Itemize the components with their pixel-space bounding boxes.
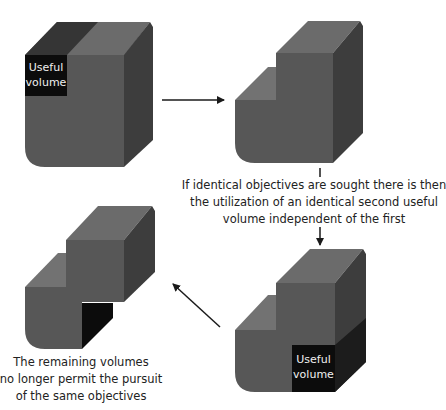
caption-line: If identical objectives are sought there…: [182, 177, 446, 194]
block-2: [235, 21, 363, 163]
caption-line: of the same objectives: [0, 388, 162, 405]
caption-line: volume independent of the first: [182, 211, 446, 228]
caption-line: the utilization of an identical second u…: [182, 194, 446, 211]
identical-objectives-caption: If identical objectives are sought there…: [182, 177, 446, 228]
caption-line: no longer permit the pursuit: [0, 371, 162, 388]
useful-volume-label-2: Useful volume: [292, 352, 335, 382]
useful-volume-label-1: Useful volume: [25, 60, 67, 90]
useful-volume-label-2-line2: volume: [292, 367, 335, 382]
block-4: [25, 206, 155, 349]
arrow-block3-to-block4: [173, 284, 220, 327]
useful-volume-label-1-line2: volume: [25, 75, 67, 90]
useful-volume-label-2-line1: Useful: [292, 352, 335, 367]
caption-line: The remaining volumes: [0, 354, 162, 371]
useful-volume-label-1-line1: Useful: [25, 60, 67, 75]
remaining-volumes-caption: The remaining volumes no longer permit t…: [0, 354, 162, 405]
block-1: [25, 22, 153, 167]
